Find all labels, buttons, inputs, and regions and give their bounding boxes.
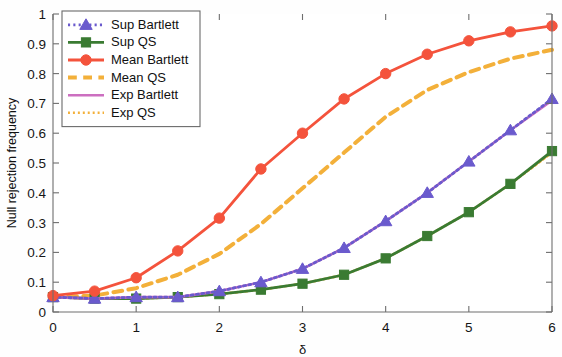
- data-point-marker: [339, 94, 349, 104]
- data-point-marker: [423, 231, 432, 240]
- legend-marker-sample: [81, 38, 90, 47]
- data-point-marker: [339, 270, 348, 279]
- y-tick-label: 0.4: [27, 186, 46, 201]
- y-tick-label: 0.7: [27, 96, 46, 111]
- data-point-marker: [422, 49, 432, 59]
- chart-canvas: 00.10.20.30.40.50.60.70.80.910123456δNul…: [0, 0, 562, 357]
- data-point-marker: [173, 246, 183, 256]
- legend-label: Exp QS: [111, 105, 156, 120]
- x-tick-label: 3: [299, 320, 307, 335]
- y-tick-label: 0.5: [27, 156, 46, 171]
- chart-figure: 00.10.20.30.40.50.60.70.80.910123456δNul…: [0, 0, 562, 357]
- data-point-marker: [464, 36, 474, 46]
- data-point-marker: [506, 179, 515, 188]
- data-point-marker: [89, 286, 99, 296]
- data-point-marker: [297, 128, 307, 138]
- legend-label: Exp Bartlett: [111, 87, 179, 102]
- legend-label: Mean Bartlett: [111, 52, 189, 67]
- x-tick-label: 2: [216, 320, 224, 335]
- x-tick-label: 4: [382, 320, 390, 335]
- y-tick-label: 0.1: [27, 275, 46, 290]
- x-tick-label: 5: [465, 320, 473, 335]
- y-tick-label: 0: [38, 305, 46, 320]
- y-tick-label: 0.3: [27, 216, 46, 231]
- data-point-marker: [298, 279, 307, 288]
- y-tick-label: 0.9: [27, 37, 46, 52]
- y-tick-label: 0.8: [27, 67, 46, 82]
- data-point-marker: [256, 164, 266, 174]
- data-point-marker: [214, 213, 224, 223]
- legend-marker-sample: [81, 55, 91, 65]
- x-tick-label: 1: [132, 320, 140, 335]
- x-tick-label: 0: [49, 320, 57, 335]
- data-point-marker: [505, 27, 515, 37]
- data-point-marker: [380, 68, 390, 78]
- data-point-marker: [131, 273, 141, 283]
- data-point-marker: [464, 208, 473, 217]
- data-point-marker: [381, 254, 390, 263]
- legend-label: Sup QS: [111, 34, 157, 49]
- y-tick-label: 1: [38, 7, 46, 22]
- y-tick-label: 0.6: [27, 126, 46, 141]
- legend-label: Mean QS: [111, 70, 166, 85]
- legend-label: Sup Bartlett: [111, 17, 179, 32]
- x-axis-title: δ: [299, 342, 306, 357]
- x-tick-label: 6: [548, 320, 556, 335]
- y-tick-label: 0.2: [27, 245, 46, 260]
- chart-legend: Sup BartlettSup QSMean BartlettMean QSEx…: [62, 11, 200, 127]
- y-axis-title: Null rejection frequency: [5, 97, 19, 228]
